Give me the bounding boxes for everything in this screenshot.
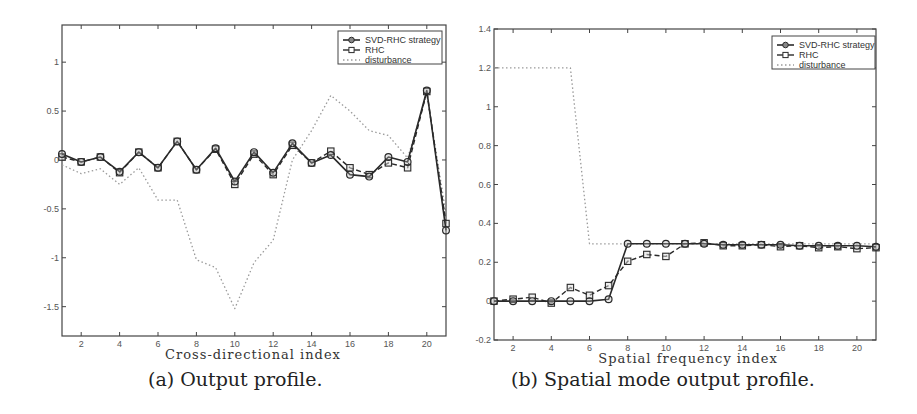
y-tick-label: 1.2: [478, 63, 491, 73]
y-tick-label: 1.4: [478, 24, 491, 34]
legend-square-icon: [783, 52, 788, 57]
data-point-square: [625, 258, 631, 264]
legend-circle-icon: [783, 42, 789, 48]
plot-frame: [62, 25, 446, 336]
y-tick-label: 0.2: [478, 257, 491, 267]
data-point-circle: [491, 298, 498, 305]
data-point-square: [567, 284, 573, 290]
data-point-circle: [548, 298, 555, 305]
x-tick-label: 6: [155, 339, 160, 349]
legend-label: SVD-RHC strategy: [799, 40, 875, 50]
x-tick-label: 2: [511, 343, 516, 353]
y-tick-label: -0.5: [43, 204, 59, 214]
legend-square-icon: [349, 47, 354, 52]
x-tick-label: 18: [383, 339, 393, 349]
legend: SVD-RHC strategyRHCdisturbance: [772, 36, 875, 70]
data-point-circle: [624, 240, 631, 247]
data-point-circle: [347, 171, 354, 178]
data-point-circle: [423, 87, 430, 94]
data-point-circle: [404, 159, 411, 166]
y-tick-label: 1: [486, 102, 491, 112]
y-tick-label: 0.4: [478, 218, 491, 228]
legend-label: RHC: [799, 50, 819, 60]
legend-label: SVD-RHC strategy: [365, 35, 441, 45]
x-tick-label: 4: [117, 339, 122, 349]
data-point-circle: [116, 168, 123, 175]
data-point-circle: [270, 169, 277, 176]
legend-circle-icon: [349, 37, 355, 43]
data-point-circle: [873, 243, 880, 250]
legend-label: RHC: [365, 45, 385, 55]
chart-output-profile: 2468101214161820-1.5-1-0.500.51Cross-dir…: [0, 0, 458, 414]
data-point-circle: [135, 149, 142, 156]
y-tick-label: 1: [54, 57, 59, 67]
y-tick-label: 0.6: [478, 180, 491, 190]
data-point-circle: [289, 140, 296, 147]
data-point-circle: [510, 298, 517, 305]
data-point-circle: [231, 178, 238, 185]
data-point-circle: [643, 240, 650, 247]
data-point-circle: [529, 298, 536, 305]
legend-label: disturbance: [799, 60, 846, 70]
series-rhc: [491, 240, 879, 307]
x-tick-label: 4: [549, 343, 554, 353]
x-tick-label: 6: [587, 343, 592, 353]
data-point-square: [644, 251, 650, 257]
data-point-circle: [682, 240, 689, 247]
data-point-square: [663, 253, 669, 259]
caption-spatial-mode-output-profile: (b) Spatial mode output profile.: [511, 368, 815, 390]
data-point-circle: [385, 154, 392, 161]
data-point-circle: [758, 241, 765, 248]
plot-frame: [494, 29, 876, 340]
data-point-circle: [308, 159, 315, 166]
data-point-circle: [720, 241, 727, 248]
x-axis-label: Spatial frequency index: [598, 351, 778, 366]
y-tick-label: 0: [54, 155, 59, 165]
data-point-circle: [701, 240, 708, 247]
data-point-circle: [251, 149, 258, 156]
data-point-square: [605, 282, 611, 288]
data-point-circle: [97, 154, 104, 161]
data-point-circle: [854, 242, 861, 249]
x-tick-label: 2: [79, 339, 84, 349]
series-disturbance: [62, 94, 446, 308]
x-axis-label: Cross-directional index: [165, 347, 341, 362]
data-point-circle: [605, 296, 612, 303]
data-point-circle: [796, 242, 803, 249]
data-point-circle: [586, 298, 593, 305]
data-point-circle: [443, 227, 450, 234]
data-point-circle: [777, 241, 784, 248]
x-tick-label: 20: [422, 339, 432, 349]
data-point-circle: [59, 151, 66, 158]
y-tick-label: 0.8: [478, 141, 491, 151]
data-point-circle: [155, 164, 162, 171]
data-point-circle: [834, 242, 841, 249]
data-point-square: [347, 165, 353, 171]
panel-output-profile: 2468101214161820-1.5-1-0.500.51Cross-dir…: [0, 0, 458, 414]
series-disturbance: [494, 68, 876, 244]
data-point-circle: [327, 152, 334, 159]
caption-output-profile: (a) Output profile.: [148, 368, 322, 390]
data-point-circle: [193, 166, 200, 173]
data-point-circle: [815, 242, 822, 249]
data-point-circle: [174, 138, 181, 145]
data-point-circle: [212, 145, 219, 152]
data-point-circle: [366, 173, 373, 180]
data-point-circle: [739, 241, 746, 248]
panel-spatial-mode-output-profile: 2468101214161820-0.200.20.40.60.811.21.4…: [458, 0, 917, 414]
data-point-circle: [663, 240, 670, 247]
y-tick-label: 0.5: [46, 106, 59, 116]
y-tick-label: -1: [51, 253, 59, 263]
y-tick-label: -1.5: [43, 302, 59, 312]
x-tick-label: 16: [345, 339, 355, 349]
chart-spatial-mode-output-profile: 2468101214161820-0.200.20.40.60.811.21.4…: [458, 0, 917, 414]
x-tick-label: 18: [814, 343, 824, 353]
legend: SVD-RHC strategyRHCdisturbance: [338, 31, 442, 65]
y-tick-label: -0.2: [475, 335, 491, 345]
data-point-circle: [567, 298, 574, 305]
legend-label: disturbance: [365, 55, 412, 65]
x-tick-label: 20: [852, 343, 862, 353]
data-point-circle: [78, 159, 85, 166]
